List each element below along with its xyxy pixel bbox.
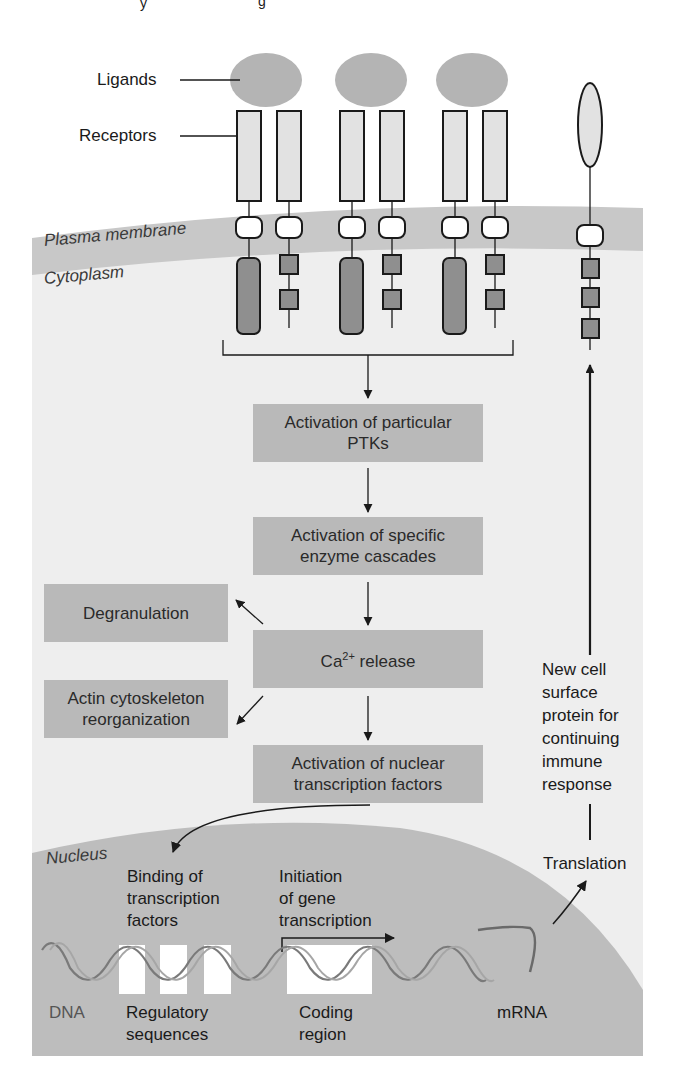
initiation-line1: Initiation xyxy=(279,866,372,888)
regulatory-label: Regulatory sequences xyxy=(126,1002,208,1046)
step-ca-release: Ca2+ release xyxy=(253,630,483,688)
regulatory-line1: Regulatory xyxy=(126,1002,208,1024)
binding-line1: Binding of xyxy=(127,866,220,888)
actin-reorganization-box: Actin cytoskeleton reorganization xyxy=(44,680,228,738)
new-protein-line: continuing xyxy=(542,727,620,750)
regulatory-line2: sequences xyxy=(126,1024,208,1046)
coding-line1: Coding xyxy=(299,1002,353,1024)
ligands-label: Ligands xyxy=(97,69,157,90)
actin-line1: Actin cytoskeleton xyxy=(67,688,204,709)
translation-label: Translation xyxy=(543,853,626,874)
step2-line1: Activation of specific xyxy=(291,525,445,546)
svg-text:y: y xyxy=(140,0,147,11)
svg-text:g: g xyxy=(258,0,266,9)
mrna-label: mRNA xyxy=(497,1002,547,1023)
step1-line1: Activation of particular xyxy=(284,412,451,433)
binding-tf-label: Binding of transcription factors xyxy=(127,866,220,932)
ca-suffix: release xyxy=(355,652,415,671)
coding-line2: region xyxy=(299,1024,353,1046)
new-protein-line: immune xyxy=(542,750,620,773)
receptors-label: Receptors xyxy=(79,125,156,146)
new-protein-line: response xyxy=(542,773,620,796)
ligand-1 xyxy=(230,53,302,107)
step4-line1: Activation of nuclear xyxy=(291,753,444,774)
step-nuclear-transcription: Activation of nuclear transcription fact… xyxy=(253,745,483,803)
ligand-2 xyxy=(335,53,407,107)
step-activation-ptks: Activation of particular PTKs xyxy=(253,404,483,462)
ligand-3 xyxy=(436,53,508,107)
step4-line2: transcription factors xyxy=(294,774,442,795)
new-protein-line: surface xyxy=(542,681,620,704)
binding-line2: transcription xyxy=(127,888,220,910)
step3-text: Ca2+ release xyxy=(321,646,416,672)
degranulation-box: Degranulation xyxy=(44,584,228,642)
step-enzyme-cascades: Activation of specific enzyme cascades xyxy=(253,517,483,575)
initiation-label: Initiation of gene transcription xyxy=(279,866,372,932)
degranulation-text: Degranulation xyxy=(83,603,189,624)
dna-label: DNA xyxy=(49,1002,85,1023)
new-protein-line: protein for xyxy=(542,704,620,727)
step2-line2: enzyme cascades xyxy=(300,546,436,567)
actin-line2: reorganization xyxy=(82,709,190,730)
ca-superscript: 2+ xyxy=(342,650,355,662)
new-protein-line: New cell xyxy=(542,658,620,681)
initiation-line2: of gene xyxy=(279,888,372,910)
initiation-line3: transcription xyxy=(279,910,372,932)
step1-line2: PTKs xyxy=(347,433,389,454)
new-protein-label: New cell surface protein for continuing … xyxy=(542,658,620,796)
coding-label: Coding region xyxy=(299,1002,353,1046)
binding-line3: factors xyxy=(127,910,220,932)
ca-prefix: Ca xyxy=(321,652,343,671)
